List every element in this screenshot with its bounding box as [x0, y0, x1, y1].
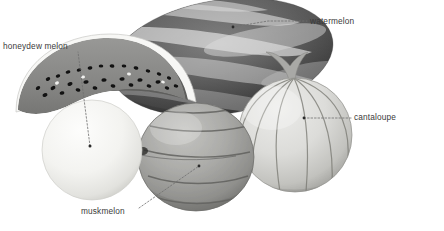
muskmelon-object	[138, 103, 254, 214]
label-cantaloupe: cantaloupe	[354, 112, 396, 122]
label-honeydew-melon: honeydew melon	[3, 41, 68, 51]
leader-dot-cantaloupe	[303, 117, 306, 120]
honeydew-body	[42, 100, 142, 200]
leader-dot-honeydew	[89, 145, 92, 148]
leader-dot-muskmelon	[198, 165, 201, 168]
figure-canvas: watermelon cantaloupe honeydew melon mus…	[0, 0, 444, 231]
label-muskmelon: muskmelon	[81, 206, 125, 216]
leader-dot-watermelon	[232, 26, 235, 29]
label-watermelon: watermelon	[310, 16, 354, 26]
honeydew-object	[42, 100, 142, 200]
watermark	[393, 219, 441, 228]
